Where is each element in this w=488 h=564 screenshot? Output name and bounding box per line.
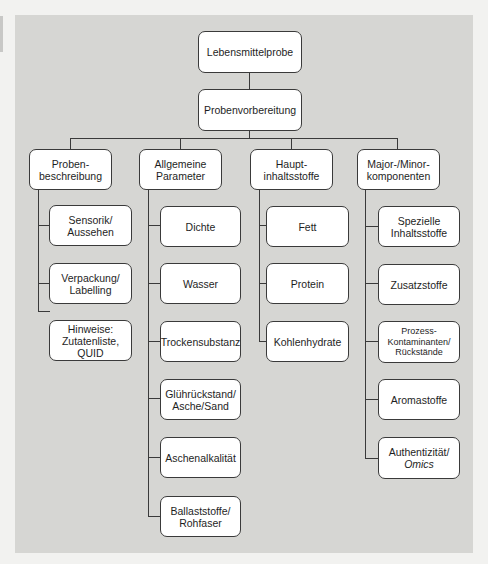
node-zusatzstoffe: Zusatzstoffe	[378, 264, 460, 305]
connector-horizontal-bar	[70, 138, 398, 139]
connector-spine-col2-end	[148, 505, 149, 517]
node-aromastoffe: Aromastoffe	[378, 379, 460, 420]
node-fett: Fett	[266, 206, 349, 247]
node-hauptinhaltsstoffe: Haupt- inhaltsstoffe	[250, 149, 333, 190]
node-hinweise-zutatenliste-quid: Hinweise: Zutatenliste, QUID	[49, 320, 132, 361]
connector-branch	[365, 226, 379, 227]
node-ballaststoffe-rohfaser: Ballaststoffe/ Rohfaser	[160, 496, 241, 537]
node-prozess-kontaminanten-rueckstaende: Prozess- Kontaminanten/ Rückstände	[378, 321, 460, 363]
node-probenbeschreibung: Proben- beschreibung	[29, 149, 112, 190]
node-protein: Protein	[266, 263, 349, 304]
node-wasser: Wasser	[160, 263, 241, 304]
connector-branch	[148, 283, 160, 284]
connector-drop-col3	[291, 138, 292, 149]
connector-branch	[38, 311, 50, 312]
page-edge-mark	[0, 16, 3, 52]
connector-drop-col1	[70, 138, 71, 149]
connector-branch	[148, 516, 160, 517]
connector-root-second	[249, 73, 250, 89]
node-probenvorbereitung: Probenvorbereitung	[198, 89, 302, 131]
node-major-minor-komponenten: Major-/Minor- komponenten	[357, 149, 440, 190]
node-sensorik-aussehen: Sensorik/ Aussehen	[49, 205, 132, 246]
node-kohlenhydrate: Kohlenhydrate	[266, 321, 349, 362]
connector-branch	[365, 458, 379, 459]
node-trockensubstanz: Trockensubstanz	[160, 321, 241, 362]
node-aschenalkalitaet: Aschenalkalität	[160, 437, 241, 478]
node-allgemeine-parameter: Allgemeine Parameter	[139, 149, 222, 190]
connector-spine-col2	[148, 190, 149, 507]
node-dichte: Dichte	[160, 206, 241, 247]
connector-spine-col3	[259, 190, 260, 342]
connector-branch	[365, 341, 379, 342]
node-lebensmittelprobe: Lebensmittelprobe	[198, 31, 302, 73]
connector-drop-col2	[180, 138, 181, 149]
node-spezielle-inhaltsstoffe: Spezielle Inhaltsstoffe	[378, 206, 460, 247]
connector-branch	[148, 457, 160, 458]
connector-spine-col1	[38, 190, 39, 312]
node-verpackung-labelling: Verpackung/ Labelling	[49, 263, 132, 304]
node-omics-label: Omics	[404, 458, 434, 470]
connector-branch	[148, 341, 160, 342]
connector-drop-col4	[397, 138, 398, 149]
connector-branch	[148, 225, 160, 226]
connector-branch	[365, 399, 379, 400]
node-authentizitaet-omics: Authentizität/ Omics	[378, 437, 460, 479]
connector-spine-col4	[365, 190, 366, 459]
node-authentizitaet-label: Authentizität/	[389, 446, 450, 458]
connector-branch	[148, 398, 160, 399]
connector-branch	[365, 283, 379, 284]
node-gluehrueckstand-asche-sand: Glührückstand/ Asche/Sand	[160, 379, 241, 420]
